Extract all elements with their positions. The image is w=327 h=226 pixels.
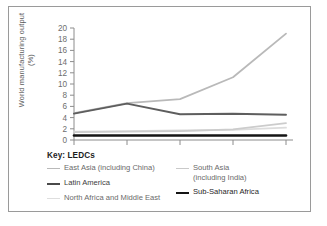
- legend-column-left: East Asia (including China) Latin Americ…: [47, 163, 176, 208]
- x-tick-label: 1970: [63, 145, 84, 147]
- legend-swatch-east-asia-icon: [47, 164, 60, 174]
- y-tick-label: 14: [58, 58, 68, 67]
- legend-swatch-latin-america-icon: [47, 179, 60, 189]
- legend-item-sub-saharan-africa: Sub-Saharan Africa: [176, 187, 305, 198]
- legend-column-right: South Asia (including India) Sub-Saharan…: [176, 163, 305, 208]
- y-tick-label: 18: [58, 35, 68, 44]
- legend-item-north-africa-middle-east: North Africa and Middle East: [47, 193, 176, 204]
- y-axis: 02468101214161820: [58, 24, 74, 145]
- legend-item-south-asia: South Asia (including India): [176, 163, 305, 182]
- y-tick-label: 16: [58, 46, 68, 55]
- y-tick-label: 10: [58, 80, 68, 89]
- legend-item-latin-america: Latin America: [47, 178, 176, 189]
- y-tick-label: 12: [58, 69, 68, 78]
- legend-label-sub-saharan-africa: Sub-Saharan Africa: [193, 187, 259, 197]
- legend-grid: East Asia (including China) Latin Americ…: [47, 163, 305, 208]
- legend-swatch-sub-saharan-africa-icon: [176, 188, 189, 198]
- legend-item-east-asia: East Asia (including China): [47, 163, 176, 174]
- line-chart-svg: 02468101214161820 19701980199019952005: [9, 7, 312, 147]
- x-axis-ticks: 19701980199019952005: [63, 140, 296, 147]
- x-tick-label: 1995: [222, 145, 243, 147]
- y-tick-label: 20: [58, 24, 68, 33]
- y-tick-label: 8: [62, 91, 67, 100]
- legend-label-north-africa-middle-east: North Africa and Middle East: [64, 193, 160, 203]
- y-tick-label: 6: [62, 102, 67, 111]
- series-line: [74, 34, 286, 114]
- y-tick-label: 4: [62, 114, 67, 123]
- x-tick-label: 1980: [116, 145, 137, 147]
- legend-swatch-south-asia-icon: [176, 164, 189, 174]
- y-tick-label: 2: [62, 125, 67, 134]
- y-axis-ticks: 02468101214161820: [58, 24, 74, 145]
- data-series-group: [74, 34, 286, 136]
- legend-title: Key: LEDCs: [47, 151, 305, 160]
- legend-swatch-north-africa-icon: [47, 194, 60, 204]
- figure-container: World manufacturing output (%) 024681012…: [8, 6, 311, 212]
- chart-legend: Key: LEDCs East Asia (including China) L…: [47, 151, 305, 208]
- x-tick-label: 1990: [169, 145, 190, 147]
- x-axis: 19701980199019952005: [63, 140, 296, 147]
- y-tick-label: 0: [62, 136, 67, 145]
- legend-label-latin-america: Latin America: [64, 178, 110, 188]
- plot-area: World manufacturing output (%) 024681012…: [9, 7, 312, 147]
- legend-label-east-asia: East Asia (including China): [64, 163, 155, 173]
- legend-label-south-asia: South Asia (including India): [193, 163, 247, 182]
- x-tick-label: 2005: [275, 145, 296, 147]
- series-line: [74, 104, 286, 115]
